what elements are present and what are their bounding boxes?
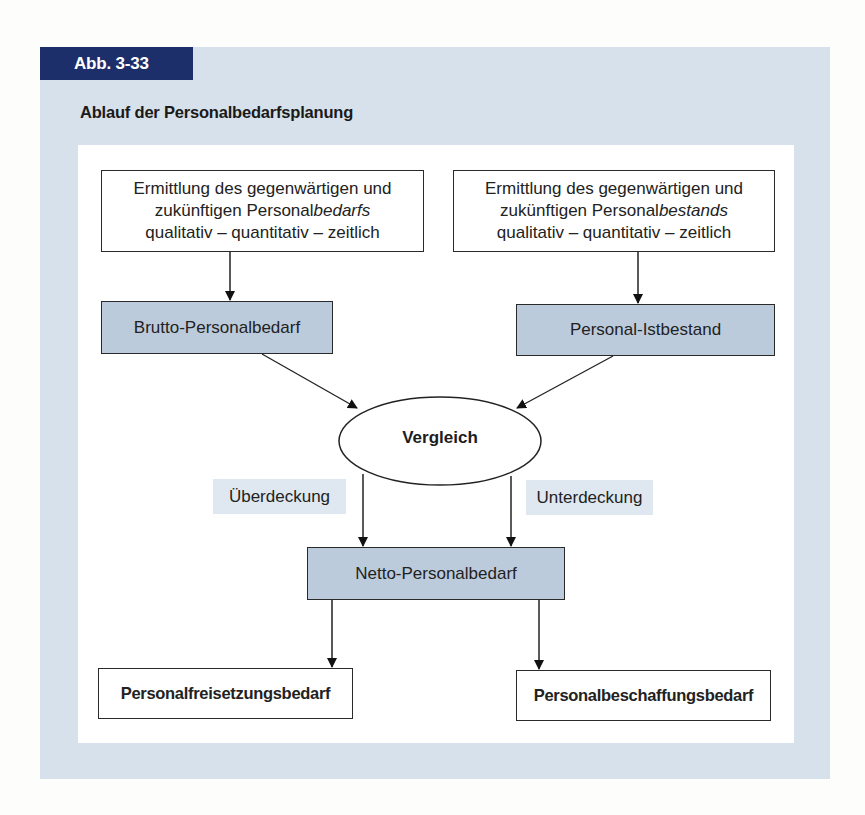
release-demand-box: Personalfreisetzungsbedarf [98, 668, 353, 719]
arrow-actual-to-comparison [517, 356, 613, 408]
procurement-demand-label: Personalbeschaffungsbedarf [534, 686, 754, 705]
stock-analysis-line1: Ermittlung des gegenwärtigen und [485, 178, 743, 200]
demand-analysis-line2: zukünftigen Personalbedarfs [155, 200, 370, 222]
net-demand-box: Netto-Personalbedarf [307, 547, 565, 600]
actual-stock-box: Personal-Istbestand [516, 304, 775, 356]
stock-analysis-box: Ermittlung des gegenwärtigen und zukünft… [453, 170, 775, 252]
stock-analysis-line2: zukünftigen Personalbestands [500, 200, 728, 222]
net-demand-label: Netto-Personalbedarf [355, 564, 517, 584]
arrow-gross-to-comparison [262, 354, 357, 408]
comparison-label: Vergleich [340, 428, 540, 448]
demand-analysis-line2-prefix: zukünftigen Personal [155, 201, 314, 220]
demand-analysis-line3: qualitativ – quantitativ – zeitlich [145, 222, 379, 244]
demand-analysis-box: Ermittlung des gegenwärtigen und zukünft… [101, 170, 424, 252]
shortage-label: Unterdeckung [526, 480, 653, 515]
demand-analysis-line2-italic: bedarfs [314, 201, 371, 220]
stock-analysis-line3: qualitativ – quantitativ – zeitlich [497, 222, 731, 244]
demand-analysis-line1: Ermittlung des gegenwärtigen und [134, 178, 392, 200]
stock-analysis-line2-prefix: zukünftigen Personal [500, 201, 659, 220]
procurement-demand-box: Personalbeschaffungsbedarf [516, 670, 771, 721]
release-demand-label: Personalfreisetzungsbedarf [121, 684, 331, 703]
surplus-label: Überdeckung [213, 479, 346, 514]
actual-stock-label: Personal-Istbestand [570, 320, 721, 340]
gross-demand-label: Brutto-Personalbedarf [134, 318, 300, 338]
gross-demand-box: Brutto-Personalbedarf [101, 301, 333, 354]
stock-analysis-line2-italic: bestands [659, 201, 728, 220]
